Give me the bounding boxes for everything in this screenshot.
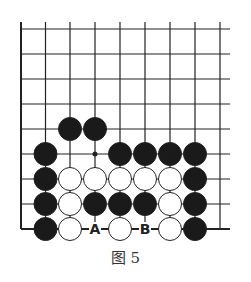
white-stone (159, 193, 182, 216)
black-stone (159, 143, 182, 166)
white-stone (59, 168, 82, 191)
black-stone (34, 143, 57, 166)
black-stone (84, 118, 107, 141)
black-stone (59, 118, 82, 141)
black-stone (184, 218, 207, 241)
black-stone (184, 168, 207, 191)
white-stone (134, 168, 157, 191)
go-board: AB (0, 0, 251, 282)
point-label-a: A (90, 221, 101, 237)
black-stone (184, 143, 207, 166)
black-stone (109, 143, 132, 166)
point-label-b: B (140, 221, 151, 237)
black-stone (34, 218, 57, 241)
black-stone (34, 193, 57, 216)
white-stone (159, 218, 182, 241)
black-stone (34, 168, 57, 191)
white-stone (159, 168, 182, 191)
white-stone (109, 218, 132, 241)
black-stone (134, 193, 157, 216)
black-stone (109, 193, 132, 216)
star-point (93, 152, 98, 157)
white-stone (109, 168, 132, 191)
white-stone (84, 168, 107, 191)
black-stone (84, 193, 107, 216)
black-stone (134, 143, 157, 166)
figure-caption: 图 5 (0, 246, 251, 267)
black-stone (184, 193, 207, 216)
white-stone (59, 218, 82, 241)
white-stone (59, 193, 82, 216)
